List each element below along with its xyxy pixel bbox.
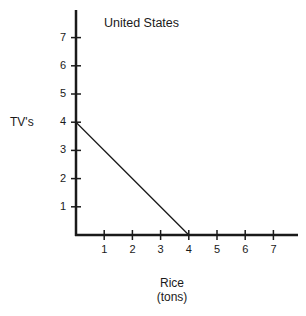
ppf-line bbox=[76, 122, 189, 235]
x-tick-label: 1 bbox=[101, 243, 107, 255]
chart-canvas bbox=[0, 0, 306, 316]
x-axis-label: Rice (tons) bbox=[157, 276, 188, 304]
y-tick-label: 7 bbox=[60, 31, 66, 43]
y-tick-label: 6 bbox=[60, 59, 66, 71]
x-tick-label: 3 bbox=[158, 243, 164, 255]
x-tick-label: 7 bbox=[270, 243, 276, 255]
y-tick-label: 4 bbox=[60, 115, 66, 127]
x-axis-label-line2: (tons) bbox=[157, 290, 188, 304]
y-tick-label: 3 bbox=[60, 143, 66, 155]
y-axis-label: TV's bbox=[10, 115, 34, 129]
x-tick-label: 2 bbox=[129, 243, 135, 255]
y-tick-label: 1 bbox=[60, 200, 66, 212]
x-tick-label: 6 bbox=[242, 243, 248, 255]
y-tick-label: 2 bbox=[60, 172, 66, 184]
x-tick-label: 5 bbox=[214, 243, 220, 255]
chart-title: United States bbox=[104, 16, 179, 30]
y-tick-label: 5 bbox=[60, 87, 66, 99]
x-axis-label-line1: Rice bbox=[157, 276, 188, 290]
x-tick-label: 4 bbox=[186, 243, 192, 255]
